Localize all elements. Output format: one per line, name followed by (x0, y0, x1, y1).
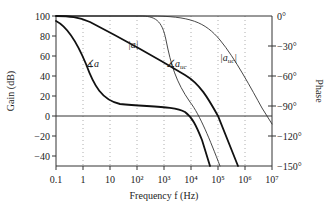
svg-text:10⁷: 10⁷ (265, 174, 279, 185)
svg-text:10³: 10³ (158, 174, 171, 185)
svg-text:−20: −20 (34, 131, 50, 142)
bode-plot: 100 80 60 40 20 0 −20 −40 0° −30° −60° −… (0, 0, 328, 208)
svg-text:10⁵: 10⁵ (211, 174, 225, 185)
axes (56, 16, 272, 166)
x-axis-label: Frequency f (Hz) (130, 190, 199, 202)
svg-text:100: 100 (35, 11, 50, 22)
svg-text:−90°: −90° (277, 101, 297, 112)
grid-lines (83, 16, 245, 166)
svg-text:0°: 0° (277, 11, 286, 22)
svg-text:10²: 10² (131, 174, 144, 185)
svg-text:60: 60 (40, 51, 50, 62)
annotation-mag-a-uc: |auc| (220, 52, 237, 65)
x-axis-tick-labels: 0.1 1 10 10² 10³ 10⁴ 10⁵ 10⁶ 10⁷ (50, 174, 280, 185)
svg-text:−120°: −120° (277, 131, 302, 142)
svg-text:40: 40 (40, 71, 50, 82)
svg-text:0.1: 0.1 (50, 174, 63, 185)
svg-text:10: 10 (105, 174, 115, 185)
svg-text:−40: −40 (34, 151, 50, 162)
y-axis-label: Gain (dB) (5, 71, 17, 111)
svg-text:1: 1 (81, 174, 86, 185)
annotation-angle-a: ∡a (85, 58, 99, 69)
svg-text:10⁶: 10⁶ (238, 174, 252, 185)
y-axis-tick-labels: 100 80 60 40 20 0 −20 −40 (34, 11, 50, 162)
curves (56, 16, 272, 166)
svg-text:10⁴: 10⁴ (184, 174, 198, 185)
curve-annotations: ∡a |a| ∡auc |auc| (85, 39, 237, 71)
svg-text:80: 80 (40, 31, 50, 42)
svg-text:0: 0 (45, 111, 50, 122)
annotation-mag-a: |a| (128, 39, 139, 50)
phase-axis-label: Phase (314, 79, 325, 103)
svg-text:−150°: −150° (277, 161, 302, 172)
svg-text:−30°: −30° (277, 41, 297, 52)
svg-text:−60°: −60° (277, 71, 297, 82)
phase-axis-tick-labels: 0° −30° −60° −90° −120° −150° (277, 11, 302, 172)
svg-text:20: 20 (40, 91, 50, 102)
